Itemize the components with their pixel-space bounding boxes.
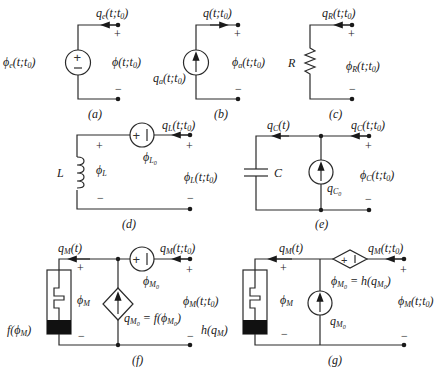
caption-b: (b) xyxy=(214,107,228,121)
voltage-label: ϕ(t;t0) xyxy=(112,55,141,70)
terminal-minus[interactable] xyxy=(188,207,193,212)
dependent-label: qM0 = f(ϕM0) xyxy=(124,311,181,327)
svg-text:−: − xyxy=(115,82,122,96)
current-label: qC(t;t0) xyxy=(351,118,385,133)
svg-text:+: + xyxy=(133,128,141,143)
svg-text:−: − xyxy=(349,82,356,96)
current-label: q(t;t0) xyxy=(203,6,232,21)
svg-text:−: − xyxy=(97,191,104,205)
inner-voltage-label: ϕM xyxy=(280,293,294,308)
current-label: qM(t;t0) xyxy=(160,241,195,256)
svg-text:−: − xyxy=(365,192,372,206)
svg-text:+: + xyxy=(341,254,347,266)
svg-text:+: + xyxy=(348,27,355,41)
svg-text:−: − xyxy=(187,191,194,205)
current-label: qM(t;t0) xyxy=(368,241,403,256)
voltage-label: ϕR(t;t0) xyxy=(346,59,380,74)
voltage-label: ϕa(t;t0) xyxy=(232,55,265,70)
svg-text:+: + xyxy=(133,252,141,267)
wire xyxy=(77,135,190,209)
caption-f: (f) xyxy=(132,353,143,367)
element-label: f(ϕM) xyxy=(7,323,31,338)
caption-g: (g) xyxy=(328,353,342,367)
terminal-plus[interactable] xyxy=(402,257,407,262)
inner-current-label: qM(t) xyxy=(279,241,303,256)
inner-current-label: qM(t) xyxy=(58,241,82,256)
source-label: qa(t;t0) xyxy=(153,71,186,86)
resistor-icon xyxy=(305,25,352,99)
voltage-label: ϕM(t;t0) xyxy=(183,294,219,309)
wire xyxy=(256,136,369,210)
caption-c: (c) xyxy=(329,107,342,121)
svg-text:+: + xyxy=(96,139,103,153)
terminal-minus[interactable] xyxy=(116,97,121,102)
svg-text:+: + xyxy=(74,50,82,65)
element-label: h(qM) xyxy=(201,323,228,338)
panel-e: qC(t) qC(t;t0) + C qC0 ϕC(t;t0) − (e) xyxy=(244,118,394,231)
panel-c: qR(t;t0) + R ϕR(t;t0) − (c) xyxy=(287,6,380,121)
terminal-plus[interactable] xyxy=(188,133,193,138)
svg-text:−: − xyxy=(78,329,85,343)
inner-voltage-label: ϕM xyxy=(77,293,91,308)
inner-current-label: qC(t) xyxy=(267,118,290,133)
element-label: C xyxy=(274,166,283,180)
voltage-label: ϕL(t;t0) xyxy=(184,170,217,185)
panel-a: + qe(t;t0) + ϕe(t;t0) ϕ(t;t0) − (a) xyxy=(3,6,141,121)
svg-text:+: + xyxy=(365,139,372,153)
terminal-minus[interactable] xyxy=(402,343,407,348)
svg-text:−: − xyxy=(401,329,408,343)
current-label: qR(t;t0) xyxy=(322,6,356,21)
svg-text:+: + xyxy=(77,261,84,275)
terminal-minus[interactable] xyxy=(350,97,355,102)
source-label: ϕM0 xyxy=(143,274,159,290)
panel-d: + qL(t;t0) + + L ϕL ϕL0 ϕL(t;t0) − − (d) xyxy=(56,118,217,231)
caption-d: (d) xyxy=(122,217,136,231)
current-label: qL(t;t0) xyxy=(162,118,195,133)
terminal-minus[interactable] xyxy=(367,208,372,213)
element-label: R xyxy=(287,56,296,70)
dependent-label: ϕM0 = h(qM0) xyxy=(331,274,391,290)
svg-text:−: − xyxy=(187,329,194,343)
voltage-label: ϕM(t;t0) xyxy=(398,294,434,309)
current-label: qe(t;t0) xyxy=(96,6,128,21)
panel-b: q(t;t0) + qa(t;t0) ϕa(t;t0) − (b) xyxy=(153,6,265,121)
terminal-minus[interactable] xyxy=(236,97,241,102)
svg-text:+: + xyxy=(114,27,121,41)
svg-text:−: − xyxy=(281,327,288,341)
svg-text:−: − xyxy=(235,82,242,96)
source-label: qM0 xyxy=(330,314,346,330)
source-label: ϕL0 xyxy=(143,150,157,166)
element-label: L xyxy=(56,166,64,180)
inductor-icon xyxy=(77,157,84,188)
svg-text:+: + xyxy=(280,261,287,275)
terminal-minus[interactable] xyxy=(188,343,193,348)
source-label: qC0 xyxy=(327,181,341,197)
inner-voltage-label: ϕL xyxy=(96,163,107,178)
panel-f: + qM(t) qM(t;t0) + + ϕM ϕM0 qM0 = f(ϕM0)… xyxy=(7,241,219,367)
svg-text:+: + xyxy=(234,27,241,41)
voltage-label: ϕC(t;t0) xyxy=(360,168,394,183)
caption-e: (e) xyxy=(315,217,328,231)
terminal-plus[interactable] xyxy=(367,134,372,139)
svg-text:+: + xyxy=(400,263,407,277)
source-label: ϕe(t;t0) xyxy=(3,55,35,70)
caption-a: (a) xyxy=(88,107,102,121)
terminal-plus[interactable] xyxy=(188,257,193,262)
dependent-source-icon xyxy=(333,250,367,268)
wire xyxy=(255,259,404,345)
svg-text:+: + xyxy=(186,263,193,277)
svg-text:+: + xyxy=(186,139,193,153)
panel-g: + qM(t) qM(t;t0) + + ϕM ϕM0 = h(qM0) qM0… xyxy=(201,241,434,367)
